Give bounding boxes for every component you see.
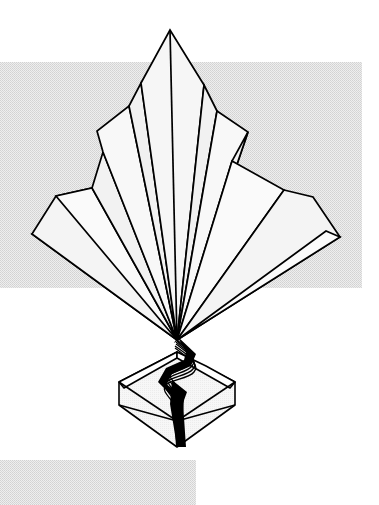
fan-envelope-illustration (0, 0, 379, 505)
lower-panel (0, 460, 196, 505)
illustration-canvas: Fan emerging from envelope Black line-ar… (0, 0, 379, 505)
